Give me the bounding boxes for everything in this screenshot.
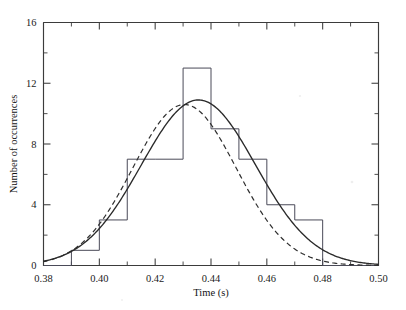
y-axis-title: Number of occurrences bbox=[8, 95, 19, 194]
chart-background bbox=[0, 0, 406, 310]
x-tick-label: 0.42 bbox=[146, 273, 164, 284]
y-tick-label: 0 bbox=[31, 260, 36, 271]
x-tick-label: 0.48 bbox=[313, 273, 331, 284]
chart-figure: 0.380.400.420.440.460.480.50 0481216 Tim… bbox=[0, 0, 406, 310]
y-tick-label: 4 bbox=[31, 199, 37, 210]
x-axis-title: Time (s) bbox=[193, 287, 229, 299]
histogram-chart: 0.380.400.420.440.460.480.50 0481216 Tim… bbox=[0, 0, 406, 310]
y-tick-label: 8 bbox=[31, 139, 36, 150]
x-tick-label: 0.44 bbox=[202, 273, 221, 284]
x-tick-label: 0.38 bbox=[34, 273, 52, 284]
x-tick-label: 0.40 bbox=[90, 273, 108, 284]
x-tick-label: 0.46 bbox=[258, 273, 276, 284]
y-tick-label: 12 bbox=[26, 78, 37, 89]
x-tick-label: 0.50 bbox=[369, 273, 387, 284]
y-tick-label: 16 bbox=[26, 17, 37, 28]
